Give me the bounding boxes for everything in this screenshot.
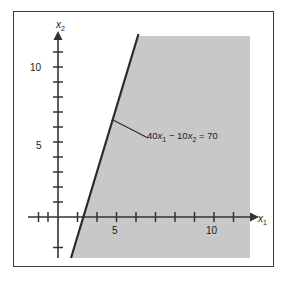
y-tick-label-5: 5 [36, 141, 42, 151]
plot-canvas [0, 0, 287, 281]
x-tick-label-10: 10 [206, 226, 217, 236]
y-tick-label-10: 10 [30, 63, 41, 73]
figure-root: x2 x1 10 5 5 10 40x1 − 10x2 = 70 [0, 0, 287, 281]
x-axis-label: x1 [258, 214, 267, 226]
x-tick-label-5: 5 [112, 226, 118, 236]
constraint-equation-label: 40x1 − 10x2 = 70 [147, 131, 218, 143]
y-axis-arrowhead [54, 31, 63, 40]
y-axis-label: x2 [56, 20, 65, 32]
shaded-region-group [71, 36, 250, 258]
feasible-region-shading [71, 36, 250, 258]
